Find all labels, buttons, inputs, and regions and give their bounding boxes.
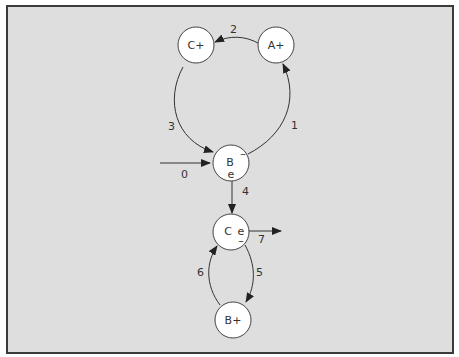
edge-6: 6 xyxy=(197,246,220,305)
edge-2: 2 xyxy=(215,23,258,43)
edge-label-2: 2 xyxy=(230,23,237,36)
edge-label-3: 3 xyxy=(168,120,175,133)
node-b-plus: B+ xyxy=(215,302,251,338)
edge-3: 3 xyxy=(168,67,213,152)
node-c: C e – xyxy=(213,214,249,250)
edge-label-1: 1 xyxy=(291,119,298,132)
edge-1: 1 xyxy=(248,64,298,154)
node-label: C xyxy=(224,225,232,238)
node-sub-top: – xyxy=(240,147,246,160)
edge-0: 0 xyxy=(160,163,210,181)
edge-label-7: 7 xyxy=(258,233,265,246)
node-a-plus: A+ xyxy=(258,27,294,63)
edge-5: 5 xyxy=(245,245,263,302)
node-label: C+ xyxy=(188,39,205,52)
state-diagram: 0 1 2 3 4 7 5 6 C+ A+ xyxy=(0,0,459,357)
edge-4: 4 xyxy=(232,181,249,213)
edge-label-4: 4 xyxy=(242,185,249,198)
node-label: A+ xyxy=(268,39,285,52)
edge-label-5: 5 xyxy=(256,266,263,279)
node-b: B – e xyxy=(213,145,249,181)
node-c-plus: C+ xyxy=(178,27,214,63)
node-sub-bottom: – xyxy=(238,234,244,247)
edge-label-0: 0 xyxy=(181,168,188,181)
node-label: B+ xyxy=(225,314,242,327)
edge-label-6: 6 xyxy=(197,266,204,279)
node-sub-bottom: e xyxy=(228,168,235,181)
edge-7: 7 xyxy=(249,231,281,246)
